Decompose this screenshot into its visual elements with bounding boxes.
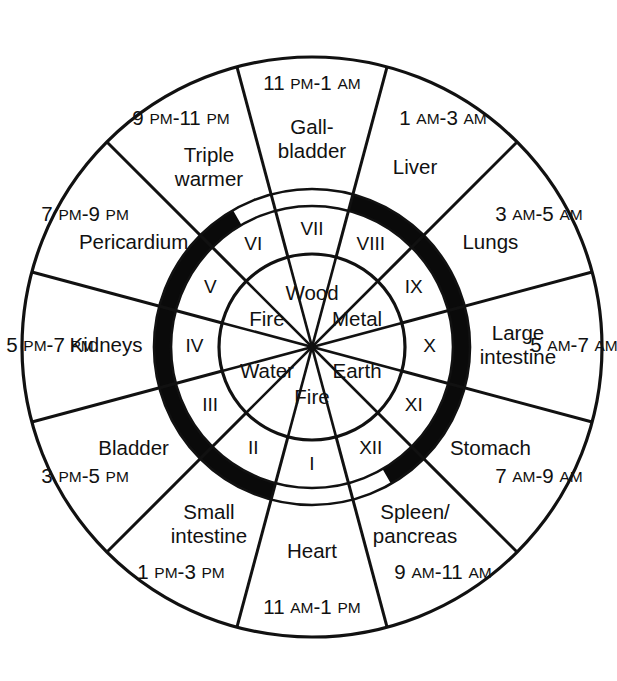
wheel-svg: Heart11 AM-1 PMSmallintestine1 PM-3 PMBl… (0, 0, 617, 681)
organ-label: Triple (184, 143, 235, 166)
element-label: Metal (332, 307, 382, 330)
roman-numeral-label: XI (405, 394, 423, 415)
roman-numeral-label: II (248, 437, 259, 458)
organ-label: Pericardium (79, 230, 188, 253)
roman-numeral-label: III (202, 394, 218, 415)
roman-numeral-label: IV (186, 335, 204, 356)
roman-numeral-label: VIII (356, 233, 385, 254)
roman-numeral-label: VI (244, 233, 262, 254)
element-label: Water (240, 359, 294, 382)
element-label: Fire (249, 307, 284, 330)
time-range-label: 5 AM-7 AM (530, 333, 617, 356)
roman-numeral-label: VII (300, 218, 323, 239)
roman-numeral-label: XII (359, 437, 382, 458)
organ-clock-diagram: Heart11 AM-1 PMSmallintestine1 PM-3 PMBl… (0, 0, 617, 681)
element-label: Wood (285, 281, 338, 304)
time-range-label: 5 PM-7 PM (6, 333, 94, 356)
time-range-label: 7 AM-9 AM (495, 464, 583, 487)
time-range-label: 1 PM-3 PM (137, 560, 225, 583)
organ-label: Stomach (450, 436, 531, 459)
organ-label: pancreas (373, 524, 457, 547)
element-label: Earth (333, 359, 382, 382)
roman-numeral-label: X (423, 335, 436, 356)
organ-label: bladder (278, 139, 347, 162)
roman-numeral-label: V (204, 276, 217, 297)
organ-label: intestine (171, 524, 247, 547)
organ-label: Gall- (290, 115, 333, 138)
element-label: Fire (294, 385, 329, 408)
time-range-label: 11 AM-1 PM (263, 595, 360, 618)
organ-label: Heart (287, 539, 337, 562)
time-range-label: 9 AM-11 AM (394, 560, 491, 583)
organ-label: Bladder (98, 436, 169, 459)
roman-numeral-label: I (309, 453, 314, 474)
organ-label: Small (183, 500, 234, 523)
time-range-label: 1 AM-3 AM (399, 107, 487, 130)
organ-label: Spleen/ (380, 500, 450, 523)
organ-label: Liver (393, 155, 438, 178)
time-range-label: 3 PM-5 PM (41, 464, 129, 487)
time-range-label: 11 PM-1 AM (263, 71, 360, 94)
organ-label: Lungs (462, 230, 518, 253)
time-range-label: 9 PM-11 PM (132, 107, 229, 130)
time-range-label: 7 PM-9 PM (41, 202, 129, 225)
time-range-label: 3 AM-5 AM (495, 202, 583, 225)
organ-label: warmer (174, 167, 244, 190)
roman-numeral-label: IX (405, 276, 423, 297)
